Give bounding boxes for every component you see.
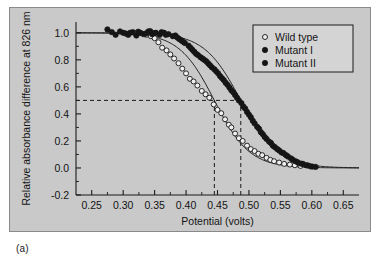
data-point bbox=[313, 164, 318, 169]
data-point bbox=[164, 48, 169, 53]
data-point bbox=[288, 156, 293, 161]
legend-label: Mutant II bbox=[275, 57, 316, 69]
y-tick-label: 0.0 bbox=[54, 162, 69, 174]
x-tick-label: 0.55 bbox=[270, 199, 291, 211]
y-axis-title: Relative absorbance difference at 826 nm bbox=[20, 11, 32, 205]
data-point bbox=[136, 29, 141, 34]
data-point bbox=[180, 66, 185, 71]
data-point bbox=[168, 52, 173, 57]
data-point bbox=[308, 164, 313, 169]
data-point bbox=[172, 56, 177, 61]
data-point bbox=[184, 71, 189, 76]
midpoint-guide-lines bbox=[76, 100, 241, 195]
titration-plot: 0.250.300.350.400.450.500.550.600.65 -0.… bbox=[10, 8, 370, 231]
data-point bbox=[293, 159, 298, 164]
figure-root: 0.250.300.350.400.450.500.550.600.65 -0.… bbox=[0, 0, 382, 271]
data-point bbox=[283, 152, 288, 157]
x-tick-label: 0.40 bbox=[176, 199, 197, 211]
x-tick-label: 0.25 bbox=[82, 199, 103, 211]
data-point bbox=[211, 102, 216, 107]
data-point bbox=[250, 118, 255, 123]
y-tick-label: 0.4 bbox=[54, 108, 69, 120]
y-axis-tick-labels: -0.20.00.20.40.60.81.0 bbox=[51, 27, 69, 201]
y-tick-label: 0.8 bbox=[54, 54, 69, 66]
data-point bbox=[176, 61, 181, 66]
data-point bbox=[272, 159, 277, 164]
legend-marker bbox=[262, 60, 267, 65]
data-point bbox=[180, 39, 185, 44]
data-point bbox=[207, 95, 212, 100]
chart-legend: Wild typeMutant IMutant II bbox=[253, 25, 353, 72]
x-tick-label: 0.50 bbox=[239, 199, 260, 211]
data-point bbox=[223, 117, 228, 122]
data-point bbox=[242, 106, 247, 111]
y-tick-label: 1.0 bbox=[54, 27, 69, 39]
x-tick-label: 0.60 bbox=[302, 199, 323, 211]
x-tick-label: 0.35 bbox=[144, 199, 165, 211]
data-point bbox=[239, 100, 244, 105]
y-axis-ticks bbox=[76, 33, 81, 195]
data-point bbox=[229, 125, 234, 130]
data-point bbox=[258, 129, 263, 134]
data-point bbox=[231, 90, 236, 95]
x-tick-label: 0.30 bbox=[113, 199, 134, 211]
y-tick-label: 0.2 bbox=[54, 135, 69, 147]
data-point bbox=[262, 134, 267, 139]
data-point bbox=[298, 161, 303, 166]
legend-marker bbox=[263, 35, 268, 40]
y-tick-label: -0.2 bbox=[51, 189, 69, 201]
data-point bbox=[223, 80, 228, 85]
data-point bbox=[227, 85, 232, 90]
figure-panel: 0.250.300.350.400.450.500.550.600.65 -0.… bbox=[9, 7, 371, 232]
legend-label: Mutant I bbox=[275, 44, 313, 56]
data-point bbox=[277, 160, 282, 165]
x-tick-label: 0.65 bbox=[333, 199, 354, 211]
legend-label: Wild type bbox=[275, 31, 318, 43]
legend-marker bbox=[262, 47, 267, 52]
data-point bbox=[287, 162, 292, 167]
x-tick-label: 0.45 bbox=[207, 199, 228, 211]
data-point bbox=[109, 29, 114, 34]
data-point bbox=[127, 30, 132, 35]
x-axis-tick-labels: 0.250.300.350.400.450.500.550.600.65 bbox=[82, 199, 354, 211]
data-point bbox=[163, 32, 168, 37]
data-point bbox=[219, 75, 224, 80]
data-point bbox=[195, 83, 200, 88]
y-tick-label: 0.6 bbox=[54, 81, 69, 93]
data-point bbox=[240, 138, 245, 143]
data-point bbox=[233, 131, 238, 136]
x-axis-ticks bbox=[92, 190, 344, 195]
data-point bbox=[246, 112, 251, 117]
data-point bbox=[254, 124, 259, 129]
data-point bbox=[117, 29, 122, 34]
data-point bbox=[151, 30, 156, 35]
data-point bbox=[215, 71, 220, 76]
panel-label: (a) bbox=[16, 243, 29, 254]
x-axis-title: Potential (volts) bbox=[181, 215, 253, 227]
data-point bbox=[156, 40, 161, 45]
data-point bbox=[234, 95, 239, 100]
data-point bbox=[207, 63, 212, 68]
data-point bbox=[191, 79, 196, 84]
data-point bbox=[282, 161, 287, 166]
data-point bbox=[219, 111, 224, 116]
